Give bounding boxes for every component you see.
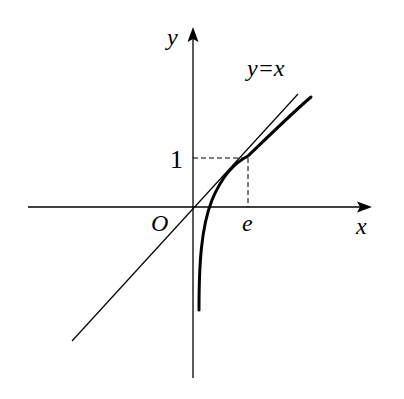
- x-axis: [28, 202, 372, 213]
- y-axis-label: y: [165, 24, 178, 50]
- function-graph: y x O y=x 1 e: [0, 0, 404, 399]
- y-axis: [188, 27, 199, 378]
- line-y-equals-x: [72, 94, 298, 341]
- line-label: y=x: [245, 55, 285, 81]
- y-tick-label: 1: [170, 145, 183, 174]
- ln-curve: [199, 97, 311, 310]
- x-axis-label: x: [355, 213, 367, 239]
- origin-label: O: [151, 210, 168, 236]
- x-tick-label: e: [242, 210, 253, 236]
